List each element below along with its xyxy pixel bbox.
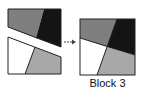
assembled-block: [80, 19, 135, 75]
block-label: Block 3: [80, 77, 135, 90]
right-arrow-icon: [64, 40, 76, 45]
